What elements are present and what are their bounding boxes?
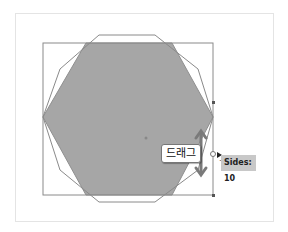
center-point <box>145 137 148 140</box>
handle-bottom-right[interactable] <box>212 194 215 197</box>
drag-annotation: 드래그 <box>161 144 201 163</box>
sides-handle[interactable] <box>211 152 216 157</box>
handle-right-top[interactable] <box>212 101 215 104</box>
sides-tooltip: Sides: 10 <box>221 155 256 171</box>
hexagon-shape[interactable] <box>43 43 213 195</box>
drawing-canvas[interactable]: + <box>0 0 288 232</box>
